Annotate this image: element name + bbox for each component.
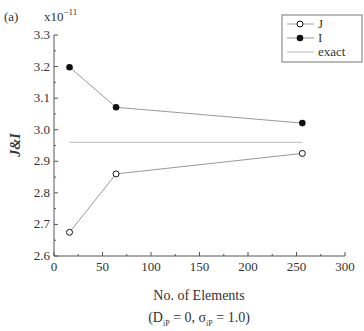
y-tick-label: 3.0 <box>34 122 50 137</box>
svg-text:exact: exact <box>318 44 346 59</box>
y-tick-label: 2.6 <box>34 248 51 263</box>
y-multiplier: x10−11 <box>44 7 77 24</box>
svg-text:I: I <box>318 30 322 45</box>
x-tick-label: 150 <box>190 259 210 274</box>
open-circle-marker-icon <box>297 21 303 27</box>
filled-circle-marker-icon <box>66 64 73 71</box>
panel-label: (a) <box>4 9 18 24</box>
x-tick-label: 50 <box>96 259 109 274</box>
x-tick-label: 300 <box>335 259 355 274</box>
series-line-I <box>70 67 303 123</box>
open-circle-marker-icon <box>67 229 73 235</box>
x-tick-label: 0 <box>51 259 58 274</box>
x-axis-subtitle: (DiP = 0, σiP = 1.0) <box>148 310 250 328</box>
x-tick-label: 200 <box>238 259 258 274</box>
y-tick-label: 2.8 <box>34 185 50 200</box>
y-tick-label: 2.9 <box>34 153 50 168</box>
y-tick-label: 2.7 <box>34 216 51 231</box>
x-tick-label: 100 <box>141 259 161 274</box>
y-multiplier-exponent: −11 <box>64 7 78 17</box>
series-line-J <box>70 153 303 232</box>
axes: 0501001502002503002.62.72.82.93.03.13.23… <box>34 27 355 274</box>
filled-circle-marker-icon <box>113 104 120 111</box>
y-multiplier-base: x10 <box>44 9 64 24</box>
chart: 0501001502002503002.62.72.82.93.03.13.23… <box>0 0 364 331</box>
y-tick-label: 3.2 <box>34 59 50 74</box>
y-tick-label: 3.1 <box>34 90 50 105</box>
open-circle-marker-icon <box>113 171 119 177</box>
svg-text:J: J <box>318 16 323 31</box>
legend: J I exact <box>282 15 362 62</box>
open-circle-marker-icon <box>299 150 305 156</box>
filled-circle-marker-icon <box>299 120 306 127</box>
plot-area <box>66 64 305 235</box>
y-tick-label: 3.3 <box>34 27 50 42</box>
y-axis-title: J&I <box>8 133 23 158</box>
x-tick-label: 250 <box>287 259 307 274</box>
x-axis-title: No. of Elements <box>153 288 244 303</box>
filled-circle-marker-icon <box>297 35 304 42</box>
